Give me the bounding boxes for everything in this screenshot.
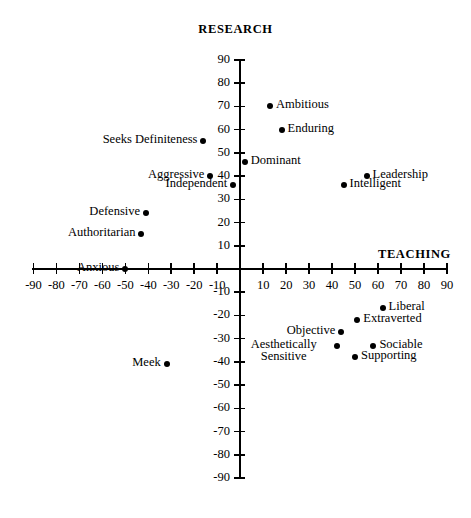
y-tick — [234, 175, 245, 177]
x-tick — [400, 263, 402, 274]
data-point-label: Authoritarian — [0, 226, 135, 239]
data-point-label: Enduring — [288, 122, 335, 135]
x-tick-label: -10 — [200, 278, 234, 293]
data-point-label: AestheticallySensitive — [236, 338, 332, 364]
y-tick — [234, 129, 245, 131]
x-tick — [377, 263, 379, 274]
data-point — [338, 329, 344, 335]
data-point-label: Objective — [145, 324, 335, 337]
data-point — [354, 317, 360, 323]
x-tick — [170, 263, 172, 274]
x-tick — [331, 263, 333, 274]
y-axis-title: RESEARCH — [0, 22, 471, 37]
y-tick — [234, 454, 245, 456]
data-point-label: Meek — [0, 356, 161, 369]
y-tick-label: -40 — [190, 354, 230, 369]
x-tick — [285, 263, 287, 274]
data-point-label: Dominant — [251, 154, 301, 167]
x-tick — [193, 263, 195, 274]
data-point — [230, 182, 236, 188]
y-tick — [234, 315, 245, 317]
data-point — [143, 210, 149, 216]
y-tick-label: -50 — [190, 377, 230, 392]
x-tick — [262, 263, 264, 274]
data-point-label: Independent — [37, 177, 227, 190]
y-tick — [234, 477, 245, 479]
data-point — [200, 138, 206, 144]
y-tick — [234, 431, 245, 433]
x-tick — [354, 263, 356, 274]
data-point — [334, 343, 340, 349]
y-tick — [234, 222, 245, 224]
scatter-plot: RESEARCH TEACHING 908070605040302010-10-… — [0, 0, 471, 518]
data-point — [164, 361, 170, 367]
x-tick — [216, 263, 218, 274]
data-point — [352, 354, 358, 360]
y-tick-label: -80 — [190, 447, 230, 462]
y-tick-label: -90 — [190, 470, 230, 485]
x-tick-label: 90 — [430, 278, 464, 293]
data-point-label: Defensive — [0, 205, 140, 218]
x-tick — [308, 263, 310, 274]
data-point-label: Ambitious — [276, 98, 329, 111]
y-tick-label: -70 — [190, 424, 230, 439]
y-tick-label: -60 — [190, 400, 230, 415]
y-tick-label: 70 — [190, 98, 230, 113]
data-point — [267, 103, 273, 109]
y-tick — [234, 59, 245, 61]
y-tick — [234, 408, 245, 410]
y-tick-label: -20 — [190, 307, 230, 322]
data-point — [242, 159, 248, 165]
x-tick — [446, 263, 448, 274]
data-point-label: Supporting — [361, 349, 417, 362]
y-tick-label: 10 — [190, 238, 230, 253]
y-tick — [234, 152, 245, 154]
data-point-label: Extraverted — [363, 312, 421, 325]
data-point-label: Anxious — [0, 261, 119, 274]
y-tick — [234, 291, 245, 293]
y-tick — [234, 82, 245, 84]
y-tick-label: 90 — [190, 52, 230, 67]
y-tick-label: 20 — [190, 215, 230, 230]
y-tick-label: 30 — [190, 191, 230, 206]
data-point — [138, 231, 144, 237]
data-point — [341, 182, 347, 188]
data-point — [122, 266, 128, 272]
x-tick — [148, 263, 150, 274]
y-tick-label: 50 — [190, 145, 230, 160]
y-tick — [234, 245, 245, 247]
x-axis-title: TEACHING — [378, 247, 451, 262]
data-point-label: Seeks Definiteness — [7, 133, 197, 146]
y-tick — [234, 199, 245, 201]
x-tick — [423, 263, 425, 274]
data-point-label: Intelligent — [350, 177, 401, 190]
y-tick — [234, 384, 245, 386]
y-tick-label: 80 — [190, 75, 230, 90]
y-tick — [234, 106, 245, 108]
data-point — [279, 127, 285, 133]
